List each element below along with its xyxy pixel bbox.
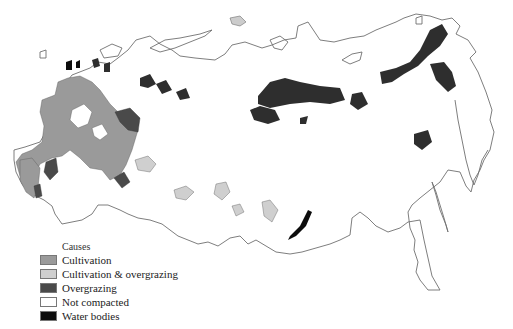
region-overgrazing-gydan xyxy=(156,80,172,94)
legend-swatch-not-compacted xyxy=(40,297,57,307)
region-cult-overgrazing-5 xyxy=(262,200,278,222)
region-overgrazing-chukotka-2 xyxy=(430,62,456,92)
legend-item-water-bodies: Water bodies xyxy=(40,309,178,323)
sakhalin-outline xyxy=(432,182,448,232)
legend-title: Causes xyxy=(62,240,178,253)
legend-item-cultivation-overgrazing: Cultivation & overgrazing xyxy=(40,267,178,281)
lake-onega xyxy=(76,60,80,68)
region-overgrazing-small-1 xyxy=(300,116,308,124)
lake-baikal xyxy=(288,210,312,240)
legend-swatch-cultivation-overgrazing xyxy=(40,269,57,279)
legend-label: Overgrazing xyxy=(62,282,117,294)
region-overgrazing-magadan xyxy=(414,130,432,150)
region-overgrazing-north-1 xyxy=(92,58,100,68)
region-overgrazing-taimyr-1 xyxy=(258,78,345,108)
legend-swatch-cultivation xyxy=(40,255,57,265)
severnaya-zemlya xyxy=(270,36,288,50)
novaya-zemlya xyxy=(150,30,212,52)
legend-label: Cultivation & overgrazing xyxy=(62,268,178,280)
lake-ladoga xyxy=(66,60,72,70)
region-overgrazing-taimyr-2 xyxy=(250,106,280,124)
legend-label: Water bodies xyxy=(62,310,119,322)
franz-josef-land xyxy=(230,16,246,26)
region-cult-overgrazing-1 xyxy=(135,156,156,172)
legend-swatch-water-bodies xyxy=(40,311,57,321)
legend-item-cultivation: Cultivation xyxy=(40,253,178,267)
region-overgrazing-yakutia xyxy=(350,92,368,110)
kola-peninsula xyxy=(100,44,122,58)
wrangel-island xyxy=(416,16,422,24)
legend-label: Not compacted xyxy=(62,296,129,308)
legend-item-overgrazing: Overgrazing xyxy=(40,281,178,295)
map-legend: Causes Cultivation Cultivation & overgra… xyxy=(40,240,178,323)
legend-label: Cultivation xyxy=(62,254,112,266)
novosibirsk-islands xyxy=(342,52,362,64)
kaliningrad xyxy=(40,50,46,58)
region-overgrazing-taimyr-w xyxy=(176,88,190,100)
legend-swatch-overgrazing xyxy=(40,283,57,293)
region-cult-overgrazing-2 xyxy=(174,186,194,200)
region-cult-overgrazing-4 xyxy=(232,204,244,216)
region-overgrazing-yamal xyxy=(140,74,156,88)
region-cult-overgrazing-3 xyxy=(214,182,230,200)
legend-item-not-compacted: Not compacted xyxy=(40,295,178,309)
region-overgrazing-south xyxy=(44,158,58,180)
